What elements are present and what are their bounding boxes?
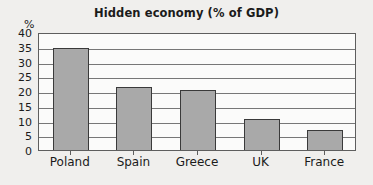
- bar: [180, 90, 216, 150]
- bar: [244, 119, 280, 150]
- chart-title: Hidden economy (% of GDP): [0, 6, 373, 20]
- y-axis-tick-label: 40: [0, 28, 32, 39]
- x-axis-tick-label: Greece: [165, 155, 229, 169]
- y-axis-tick-label: 25: [0, 72, 32, 83]
- x-axis-tick-label: Poland: [38, 155, 102, 169]
- y-axis-tick-label: 5: [0, 131, 32, 142]
- bar: [307, 130, 343, 150]
- x-axis-tick-label: UK: [229, 155, 293, 169]
- bar-chart-figure: Hidden economy (% of GDP) % 051015202530…: [0, 0, 373, 185]
- x-axis-tick-label: France: [292, 155, 356, 169]
- y-axis-tick-label: 20: [0, 87, 32, 98]
- y-axis-tick-label: 35: [0, 43, 32, 54]
- plot-area: [38, 33, 356, 151]
- y-axis-tick-label: 30: [0, 58, 32, 69]
- y-axis-tick-label: 15: [0, 102, 32, 113]
- y-axis-tick-label: 10: [0, 117, 32, 128]
- y-axis-tick-label: 0: [0, 146, 32, 157]
- x-axis-tick-label: Spain: [102, 155, 166, 169]
- bar: [53, 48, 89, 150]
- bar: [116, 87, 152, 150]
